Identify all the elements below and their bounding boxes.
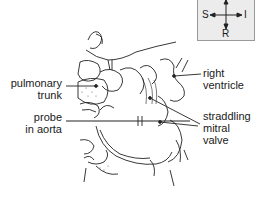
label-straddling-mitral-valve: straddling mitral valve [203,110,251,146]
compass-right-label: I [244,10,247,20]
compass-left-label: S [202,10,209,20]
label-line: right [203,67,244,79]
label-line: pulmonary [8,77,62,89]
label-right-ventricle: right ventricle [203,67,244,91]
orientation-compass: S I R [197,0,255,41]
label-line: in aorta [8,123,62,135]
label-probe-in-aorta: probe in aorta [8,111,62,135]
label-line: straddling [203,110,251,122]
compass-bottom-label: R [222,29,229,39]
label-line: ventricle [203,79,244,91]
label-line: valve [203,134,251,146]
label-line: trunk [8,89,62,101]
label-pulmonary-trunk: pulmonary trunk [8,77,62,101]
label-line: probe [8,111,62,123]
label-line: mitral [203,122,251,134]
